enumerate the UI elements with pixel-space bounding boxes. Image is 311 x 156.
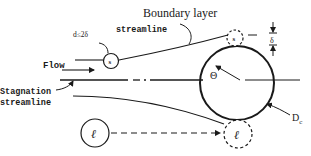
particle-collection-diagram: Θ s s δ Boundary layer streamline d≤2δ F… xyxy=(0,0,311,156)
stagnation-leader xyxy=(56,81,73,90)
svg-text:δ: δ xyxy=(270,36,274,45)
size-condition-leader xyxy=(99,43,108,53)
large-particle-label: ℓ xyxy=(91,127,96,141)
particle-size-condition-label: d≤2δ xyxy=(73,30,89,39)
theta-label: Θ xyxy=(210,70,217,81)
delta-dimension: δ xyxy=(269,22,277,56)
collector-diameter-leader xyxy=(267,104,290,115)
stagnation-label-line1: Stagnation xyxy=(0,87,51,97)
streamline-label-top: streamline xyxy=(116,25,167,35)
small-particle-label: s xyxy=(109,58,112,66)
theta-radius-line xyxy=(216,66,240,80)
diagram-svg: Θ s s δ Boundary layer streamline d≤2δ F… xyxy=(0,0,311,156)
boundary-layer-label: Boundary layer xyxy=(143,6,217,20)
flow-label: Flow xyxy=(43,61,65,71)
collector-cylinder xyxy=(200,46,274,120)
large-particle-contact-label: ℓ xyxy=(234,128,239,142)
small-particle-contact-label: s xyxy=(233,35,236,43)
boundary-layer-leader xyxy=(180,24,191,44)
stagnation-label-line2: streamline xyxy=(0,98,51,108)
collector-diameter-label: Dc xyxy=(292,112,302,126)
